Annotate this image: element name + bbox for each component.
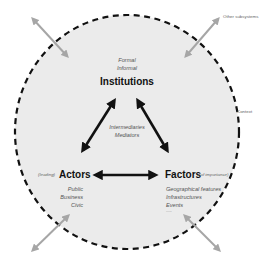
- factors-suffix: (of importance): [199, 173, 229, 177]
- institutions-subitem-informal: Informal: [112, 66, 142, 72]
- intermediaries-label: Intermediaries: [100, 125, 154, 131]
- factors-more: ......: [166, 210, 172, 214]
- outer-arrow-bottom-left: [33, 216, 68, 250]
- actors-subitem-business: Business: [50, 195, 83, 201]
- factors-title: Factors: [165, 170, 201, 180]
- factors-subitem-infrastructures: Infrastructures: [166, 195, 202, 201]
- actors-subitem-public: Public: [50, 187, 83, 193]
- actors-title: Actors: [59, 170, 91, 180]
- actors-prefix: (leading): [38, 173, 55, 177]
- factors-subitem-events: Events: [166, 203, 183, 209]
- institutions-title: Institutions: [92, 77, 162, 87]
- other-subsystems-label: Other subsystems: [223, 15, 258, 19]
- institutions-subitem-formal: Formal: [112, 58, 142, 64]
- actors-subitem-civic: Civic: [50, 203, 83, 209]
- factors-subitem-geographical: Geographical features: [166, 187, 221, 193]
- mediators-label: Mediators: [100, 133, 154, 139]
- outer-arrow-bottom-right: [185, 216, 219, 250]
- context-label: Context: [237, 110, 252, 114]
